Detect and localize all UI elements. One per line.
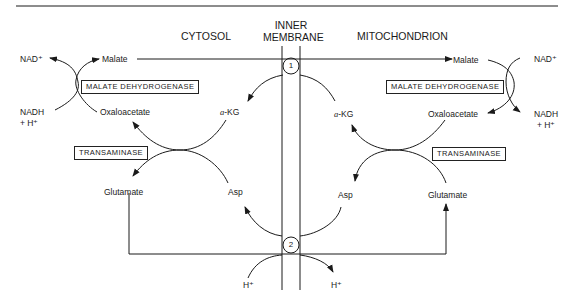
- mito-alpha-kg: a-KG: [334, 110, 353, 119]
- cytosol-malate: Malate: [102, 55, 128, 64]
- mito-oxaloacetate: Oxaloacetate: [428, 110, 478, 119]
- inner-membrane-header: INNER MEMBRANE: [263, 19, 319, 43]
- cytosol-header: CYTOSOL: [181, 30, 231, 42]
- cytosol-nadh: NADH: [20, 108, 44, 117]
- mito-malate: Malate: [453, 56, 479, 65]
- mito-transaminase-box: TRANSAMINASE: [432, 147, 506, 161]
- cytosol-asp: Asp: [228, 188, 243, 197]
- mito-h-plus: + H⁺: [537, 121, 555, 130]
- cytosol-alpha-kg: a-KG: [220, 108, 239, 117]
- mito-malate-dehydrogenase-box: MALATE DEHYDROGENASE: [386, 80, 504, 94]
- cytosol-malate-dehydrogenase-box: MALATE DEHYDROGENASE: [81, 80, 199, 94]
- mito-nad-plus: NAD⁺: [534, 55, 557, 64]
- inner-membrane-line1: INNER: [263, 19, 319, 31]
- cytosol-oxaloacetate: Oxaloacetate: [100, 108, 150, 117]
- proton-mitochondrion: H⁺: [331, 281, 342, 290]
- cytosol-nad-plus: NAD⁺: [20, 55, 43, 64]
- cytosol-transaminase-box: TRANSAMINASE: [74, 146, 148, 160]
- transporter-1-label: 1: [284, 59, 298, 73]
- mito-nadh: NADH: [534, 110, 558, 119]
- mito-glutamate: Glutamate: [428, 191, 467, 200]
- mitochondrion-header: MITOCHONDRION: [357, 30, 448, 42]
- mito-asp: Asp: [338, 191, 353, 200]
- cytosol-h-plus: + H⁺: [20, 119, 38, 128]
- cytosol-glutamate: Glutamate: [104, 188, 143, 197]
- proton-cytosol: H⁺: [243, 281, 254, 290]
- transporter-2-label: 2: [284, 238, 298, 252]
- inner-membrane-line2: MEMBRANE: [263, 31, 319, 43]
